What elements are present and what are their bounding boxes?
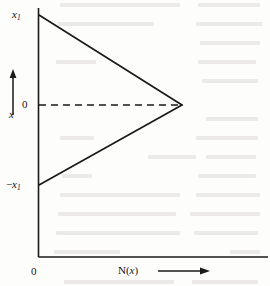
y-axis-title-var: x — [9, 108, 14, 120]
y-tick-label-x1-top: x1 — [12, 9, 21, 22]
profile-lower-limb — [39, 105, 182, 185]
y-tick-label-zero: 0 — [22, 99, 28, 110]
y-tick-label-x1-bottom: −x1 — [6, 179, 21, 192]
x-axis-title-suffix: ) — [135, 264, 139, 276]
y-tick-label-x1-top-subscript: 1 — [17, 13, 21, 22]
x-axis-title: N(x) — [118, 265, 138, 276]
x-axis-title-prefix: N( — [118, 264, 130, 276]
x-axis-origin-label: 0 — [31, 266, 37, 277]
plot-area — [0, 0, 270, 286]
profile-upper-limb — [39, 15, 182, 105]
y-tick-label-x1-bottom-subscript: 1 — [17, 183, 21, 192]
y-axis-title: x — [9, 109, 14, 120]
figure-container: x1 0 −x1 x 0 N(x) — [0, 0, 270, 286]
x-axis-arrow-icon — [158, 267, 210, 274]
